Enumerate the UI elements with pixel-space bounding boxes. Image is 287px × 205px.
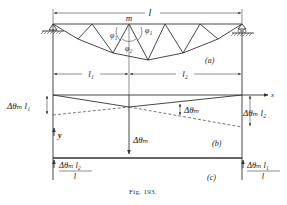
phi1-right-label: φ₁ [145, 26, 152, 35]
left-extension-dashed [53, 107, 129, 115]
truss-deflection-figure: l m φ₁ φ₁ φ₂ (a) [0, 0, 287, 205]
node-m-label: m [126, 13, 133, 23]
span-dimension: l [53, 7, 242, 24]
span-label: l [149, 7, 152, 18]
load-label: Δθₘ [132, 135, 148, 145]
segment-dimensions: l₁ l₂ [54, 69, 241, 79]
panel-c-label: (c) [207, 173, 216, 182]
left-reaction-denominator: l [74, 171, 77, 181]
l2-label: l₂ [182, 69, 188, 79]
deflection-line [53, 95, 242, 107]
right-roller-support [231, 24, 254, 36]
right-reaction-denominator: l [262, 171, 265, 181]
figure-caption: Fig. 193. [129, 188, 157, 196]
l1-label: l₁ [88, 69, 94, 79]
y-axis-label: y [57, 131, 62, 140]
x-axis-label: x [270, 91, 275, 99]
panel-a-truss: l m φ₁ φ₁ φ₂ (a) [41, 7, 254, 65]
panel-b-deflection: x Δθₘ Δθₘ l₁ Δθₘ Δθₘ l₂ y (b) [6, 91, 275, 154]
left-reaction-numerator: Δθₘ l₂ [58, 160, 81, 170]
right-reaction-numerator: Δθₘ l₁ [246, 160, 269, 170]
panel-b-label: (b) [212, 139, 222, 148]
panel-a-label: (a) [205, 56, 215, 65]
panel-c-conjugate-beam: Δθₘ l₂ l Δθₘ l₁ l (c) [53, 158, 280, 182]
angle-arc-phi1-right [137, 27, 142, 41]
left-offset-label: Δθₘ l₁ [6, 101, 30, 111]
right-offset-label: Δθₘ l₂ [242, 108, 266, 118]
angle-label: Δθₘ [183, 105, 199, 115]
phi1-left-label: φ₁ [110, 31, 117, 40]
